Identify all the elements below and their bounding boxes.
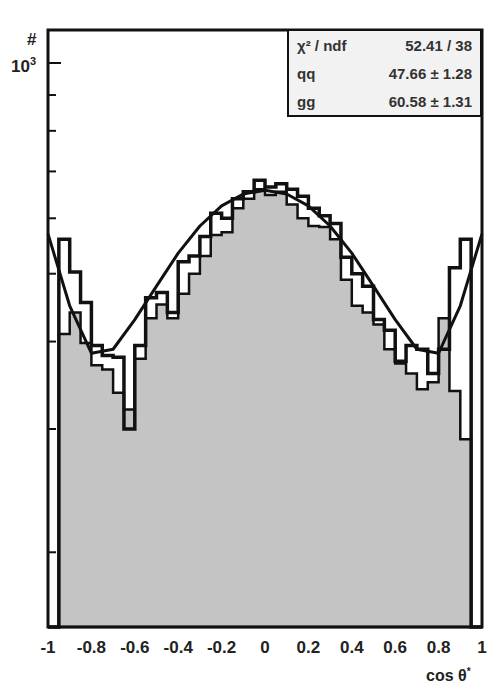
x-tick-label: -0.4 [164, 638, 193, 658]
x-tick-label: -0.2 [207, 638, 236, 658]
x-tick-label: 0.6 [383, 638, 407, 658]
legend-row-qq: qq47.66 ± 1.28 [297, 61, 472, 87]
x-tick-label: -0.8 [77, 638, 106, 658]
fit-stats-legend: χ² / ndf52.41 / 38 qq47.66 ± 1.28 gg60.5… [287, 29, 482, 117]
mc-histogram [48, 189, 482, 627]
legend-row-gg: gg60.58 ± 1.31 [297, 89, 472, 115]
x-tick-label: -0.6 [120, 638, 149, 658]
x-tick-label: 0.4 [340, 638, 364, 658]
y-axis-title: # [27, 30, 36, 50]
x-tick-label: -1 [40, 638, 55, 658]
x-tick-label: 0 [260, 638, 269, 658]
y-major-tick-label: 103 [11, 55, 36, 77]
x-tick-label: 0.2 [297, 638, 321, 658]
x-tick-label: 0.8 [427, 638, 451, 658]
x-tick-label: 1 [477, 638, 486, 658]
x-axis-title: cos θ* [426, 666, 471, 685]
legend-row-chi2: χ² / ndf52.41 / 38 [297, 33, 472, 59]
